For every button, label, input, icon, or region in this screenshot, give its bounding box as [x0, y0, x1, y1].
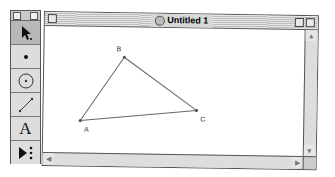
custom-tool[interactable] [11, 141, 40, 164]
label-c[interactable]: C [200, 115, 205, 122]
point-tool[interactable] [11, 45, 40, 69]
arrow-select-tool[interactable] [11, 21, 40, 45]
circle-icon [17, 72, 35, 90]
segment-icon [17, 96, 35, 114]
scroll-up-arrow[interactable]: ▲ [306, 30, 317, 41]
zoom-box[interactable] [295, 18, 304, 27]
scroll-down-arrow[interactable]: ▼ [304, 145, 315, 156]
segment-ca[interactable] [80, 109, 196, 123]
compass-tool[interactable] [11, 69, 40, 93]
sketch-window: Untitled 1 A B C ▲ ▼ ◀ ▶ [42, 11, 319, 170]
window-title-text: Untitled 1 [167, 14, 208, 28]
palette-title-bar[interactable] [11, 11, 40, 21]
close-box[interactable] [48, 14, 57, 23]
label-a[interactable]: A [84, 126, 89, 133]
document-icon [154, 15, 164, 25]
window-title: Untitled 1 [150, 14, 212, 28]
segment-bc[interactable] [123, 57, 197, 110]
collapse-box[interactable] [306, 18, 315, 27]
text-icon: A [19, 119, 31, 139]
resize-grip[interactable] [303, 156, 316, 169]
segment-ab[interactable] [80, 57, 124, 122]
straightedge-tool[interactable] [11, 93, 40, 117]
label-b[interactable]: B [116, 45, 121, 52]
triangle-construction: A B C [43, 26, 305, 156]
palette-close-box[interactable] [13, 12, 21, 20]
text-tool[interactable]: A [11, 117, 40, 141]
palette-zoom-box[interactable] [30, 12, 38, 20]
point-icon [19, 50, 33, 64]
scroll-left-arrow[interactable]: ◀ [43, 153, 54, 164]
vertical-scrollbar[interactable]: ▲ ▼ [303, 30, 318, 156]
arrow-icon [19, 25, 33, 41]
toolbox-palette: A [10, 10, 41, 164]
scroll-right-arrow[interactable]: ▶ [292, 157, 303, 168]
custom-tool-icon [17, 145, 35, 161]
sketch-canvas[interactable]: A B C [43, 26, 305, 156]
horizontal-scrollbar[interactable]: ◀ ▶ [43, 152, 303, 169]
